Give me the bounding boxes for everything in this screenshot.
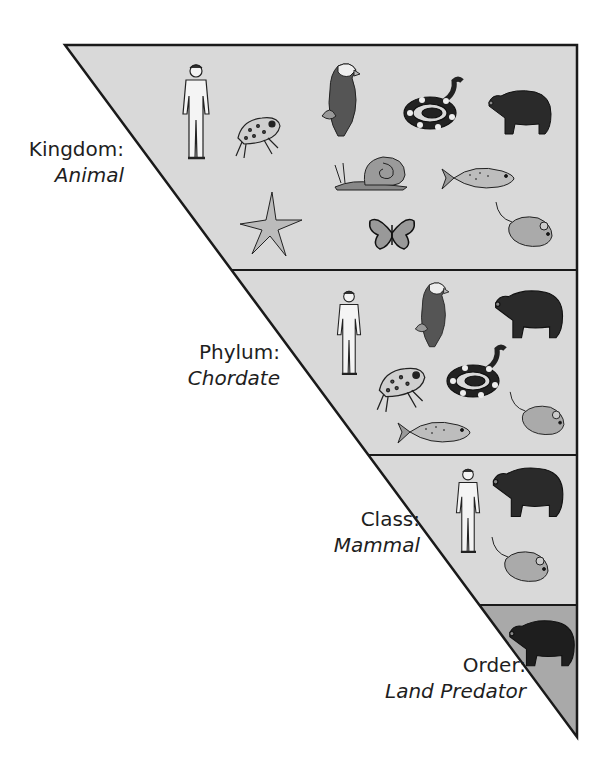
rank-order: Order: bbox=[360, 652, 526, 678]
label-class: Class: Mammal bbox=[300, 506, 420, 558]
eagle-icon bbox=[410, 276, 456, 352]
fish-icon bbox=[440, 163, 516, 193]
rank-class: Class: bbox=[300, 506, 420, 532]
starfish-icon bbox=[238, 190, 304, 258]
bear-icon bbox=[488, 465, 566, 521]
mouse-icon bbox=[508, 390, 568, 438]
eagle-icon bbox=[316, 60, 368, 138]
label-order: Order: Land Predator bbox=[360, 652, 526, 704]
label-phylum: Phylum: Chordate bbox=[150, 339, 280, 391]
bear-icon bbox=[503, 618, 579, 670]
human-icon bbox=[333, 283, 365, 383]
human-icon bbox=[178, 62, 214, 162]
taxon-mammal: Mammal bbox=[300, 532, 420, 558]
rank-phylum: Phylum: bbox=[150, 339, 280, 365]
taxon-chordate: Chordate bbox=[150, 365, 280, 391]
human-icon bbox=[452, 460, 484, 562]
mouse-icon bbox=[494, 200, 556, 250]
label-kingdom: Kingdom: Animal bbox=[0, 136, 124, 188]
bear-icon bbox=[490, 288, 566, 342]
snake-icon bbox=[400, 75, 466, 133]
taxonomy-diagram: Kingdom: Animal Phylum: Chordate Class: … bbox=[0, 0, 611, 772]
rank-kingdom: Kingdom: bbox=[0, 136, 124, 162]
butterfly-icon bbox=[368, 215, 416, 253]
taxon-animal: Animal bbox=[0, 162, 124, 188]
mouse-icon bbox=[490, 535, 552, 585]
snake-icon bbox=[440, 343, 512, 401]
taxon-land-predator: Land Predator bbox=[360, 678, 526, 704]
frog-icon bbox=[232, 110, 284, 160]
bear-icon bbox=[485, 88, 553, 138]
fish-icon bbox=[395, 417, 473, 447]
frog-icon bbox=[372, 360, 430, 414]
snail-icon bbox=[333, 153, 409, 191]
